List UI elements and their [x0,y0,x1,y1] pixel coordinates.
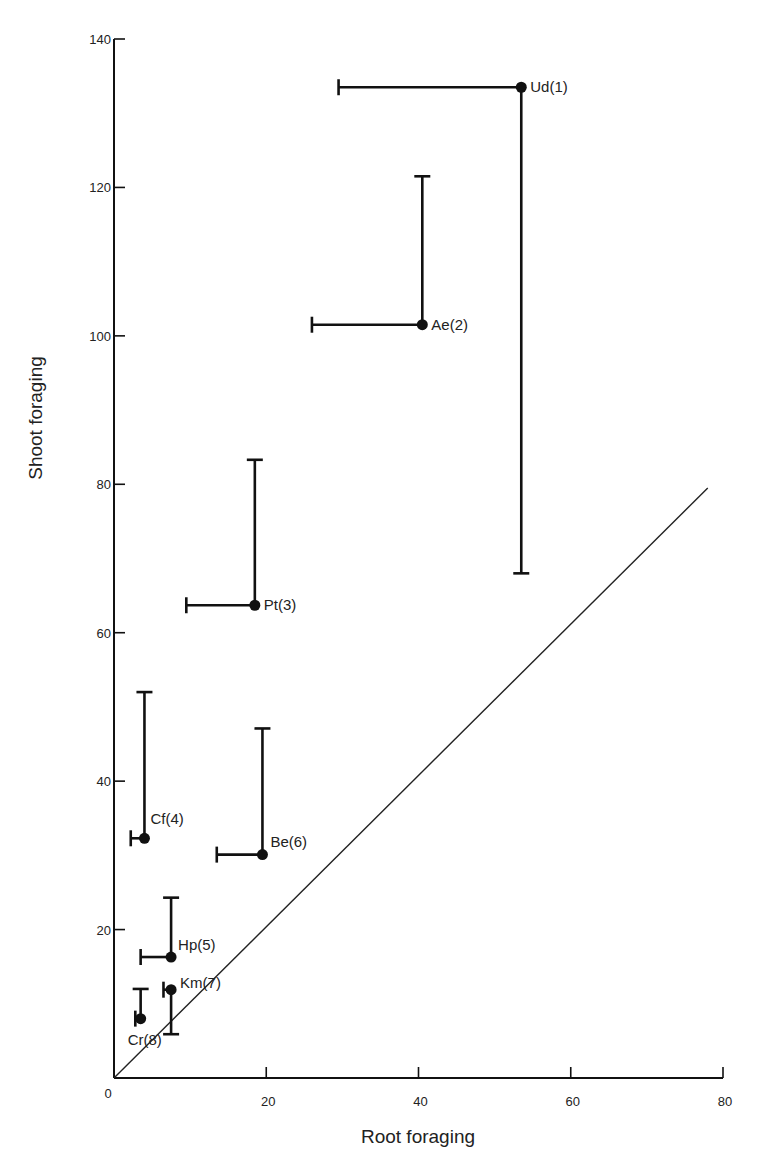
y-axis-title: Shoot foraging [25,356,46,480]
data-point-group: Hp(5) [141,898,216,965]
x-tick-label: 20 [261,1094,275,1109]
y-tick-label: 20 [97,923,111,938]
data-point-label: Ae(2) [431,316,468,333]
y-tick-label: 60 [97,626,111,641]
y-tick-label: 140 [89,32,111,47]
data-point-marker [166,952,177,963]
x-axis-title: Root foraging [361,1126,475,1147]
data-point-group: Cr(8) [128,989,162,1048]
data-point-marker [135,1013,146,1024]
y-tick-label: 100 [89,329,111,344]
y-tick-label: 120 [89,180,111,195]
data-point-label: Ud(1) [530,78,568,95]
y-tick-label: 80 [97,477,111,492]
data-point-group: Km(7) [163,974,221,1035]
data-point-label: Km(7) [180,974,221,991]
data-point-marker [257,849,268,860]
data-point-label: Be(6) [270,833,307,850]
data-point-label: Hp(5) [178,936,216,953]
data-points: Ud(1)Ae(2)Pt(3)Cf(4)Hp(5)Be(6)Km(7)Cr(8) [128,78,568,1047]
data-point-label: Pt(3) [264,596,297,613]
data-point-marker [249,600,260,611]
x-tick-label: 60 [566,1094,580,1109]
data-point-marker [139,833,150,844]
data-point-marker [516,82,527,93]
data-point-label: Cr(8) [128,1031,162,1048]
data-point-group: Pt(3) [186,460,296,613]
data-point-group: Ae(2) [312,176,468,332]
x-tick-label: 80 [718,1094,732,1109]
origin-label: 0 [104,1086,111,1101]
data-point-marker [417,319,428,330]
data-point-marker [166,984,177,995]
data-point-group: Be(6) [217,728,307,862]
data-point-label: Cf(4) [150,810,183,827]
data-point-group: Cf(4) [131,692,184,846]
x-tick-label: 40 [413,1094,427,1109]
scatter-chart: 02040608020406080100120140 Ud(1)Ae(2)Pt(… [0,0,759,1169]
y-tick-label: 40 [97,774,111,789]
